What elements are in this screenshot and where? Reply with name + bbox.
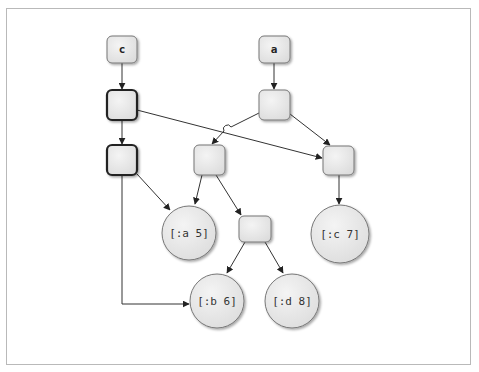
edge-a1-to-right xyxy=(290,114,330,145)
edge-bd-to-b6 xyxy=(227,242,245,273)
node-a1 xyxy=(259,90,290,120)
node-a-left xyxy=(194,145,225,175)
leaf-label-c7: [:c 7] xyxy=(320,228,360,241)
leaf-label-d8: [:d 8] xyxy=(272,295,312,308)
root-label-a: a xyxy=(271,43,278,56)
node-a-right xyxy=(323,146,354,175)
node-c2-modified xyxy=(107,145,137,175)
edge-mid-to-bd xyxy=(216,175,241,215)
node-a-bd xyxy=(239,216,271,242)
edge-c2-to-a5 xyxy=(137,174,170,210)
root-label-c: c xyxy=(119,43,126,56)
node-c1-modified xyxy=(107,90,137,120)
edge-bd-to-d8 xyxy=(265,242,283,273)
leaf-label-b6: [:b 6] xyxy=(197,295,237,308)
edge-mid-to-a5 xyxy=(195,175,202,204)
leaf-label-a5: [:a 5] xyxy=(169,227,209,240)
tree-diagram: c a [:a 5] [:c 7] [:b 6] [:d 8] xyxy=(0,0,479,372)
